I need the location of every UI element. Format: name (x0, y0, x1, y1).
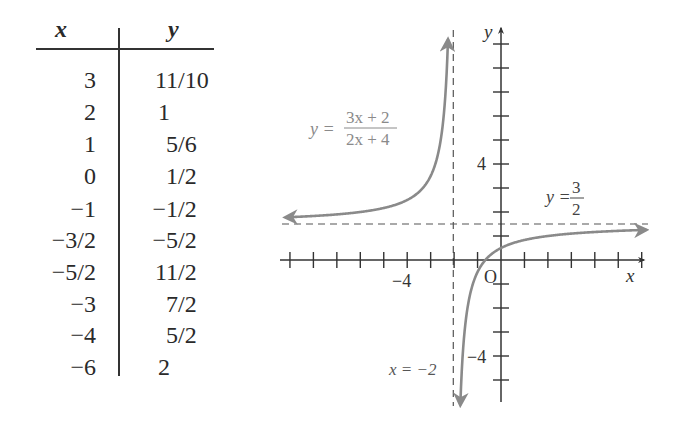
svg-text:2: 2 (572, 200, 581, 219)
y-tick-label-neg4: −4 (467, 347, 486, 367)
x-tick-label: −4 (392, 271, 411, 291)
y-tick-label-4: 4 (477, 154, 486, 174)
svg-text:2x + 4: 2x + 4 (346, 130, 390, 149)
function-label: y = 3x + 2 2x + 4 (308, 108, 397, 149)
svg-text:3x + 2: 3x + 2 (346, 108, 390, 127)
svg-text:y =: y = (544, 187, 571, 207)
vertical-asymptote-label: x = −2 (388, 360, 437, 379)
horizontal-asymptote-label: y = 3 2 (544, 178, 584, 219)
function-graph: x y O −4 4 −4 y = 3x + 2 2x + 4 y = 3 2 … (0, 0, 679, 426)
svg-text:y =: y = (308, 119, 335, 139)
y-axis-label: y (482, 21, 493, 42)
origin-label: O (484, 267, 497, 287)
x-axis-label: x (625, 265, 635, 286)
svg-text:3: 3 (572, 178, 581, 197)
